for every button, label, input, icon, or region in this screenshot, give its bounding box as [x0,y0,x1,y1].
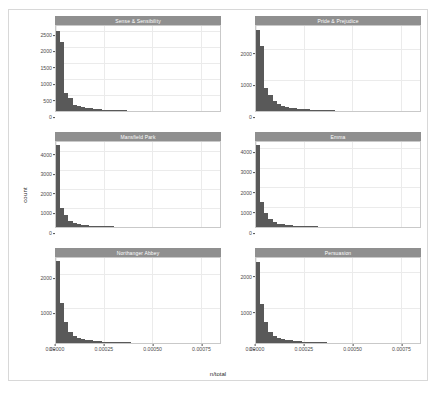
x-tick-label: 0.00025 [94,347,113,352]
y-axis: 01000200030004000 [231,141,255,228]
facet-strip-label: Northanger Abbey [55,248,221,257]
facet-panel: Emma010002000300040000.000000.000250.000… [231,132,421,242]
y-tick-label: 4000 [40,152,52,157]
facet-panel: Sense & Sensibility050010001500200025000… [31,16,221,126]
y-axis: 010002000 [231,257,255,344]
histogram-bar [418,343,421,344]
histogram-bars [256,258,420,343]
gridline-horizontal [56,227,220,228]
facet-strip-label: Pride & Prejudice [255,16,421,25]
facet-panel: Mansfield Park010002000300040000.000000.… [31,132,221,242]
y-tick-label: 2000 [40,276,52,281]
x-axis: 0.000000.000250.000500.00075 [255,344,421,358]
histogram-bars [256,26,420,111]
y-tick-label: 0 [49,115,52,120]
gridline-horizontal [256,111,420,112]
gridline-horizontal [56,111,220,112]
y-tick-label: 0 [249,231,252,236]
y-axis: 01000200030004000 [31,141,55,228]
plot-panel [55,141,221,228]
y-tick-label: 1000 [40,82,52,87]
x-tick-label: 0.00000 [246,347,265,352]
x-tick-label: 0.00075 [392,347,411,352]
plot-panel [255,257,421,344]
y-tick-label: 1000 [40,311,52,316]
y-tick-label: 2500 [40,33,52,38]
histogram-bar [218,343,221,344]
y-tick-label: 1000 [40,211,52,216]
y-tick-label: 2000 [240,51,252,56]
histogram-bar [218,227,221,228]
facet-body: 010002000 [31,257,221,344]
facet-body: 01000200030004000 [231,141,421,228]
facet-panel: Persuasion0100020000.000000.000250.00050… [231,248,421,358]
histogram-bar [418,111,421,112]
facet-strip-label: Mansfield Park [55,132,221,141]
y-tick-label: 0 [249,115,252,120]
histogram-bar [418,227,421,228]
facet-plot: count n/total Sense & Sensibility0500100… [9,10,427,380]
y-tick-label: 2000 [240,274,252,279]
histogram-bars [256,142,420,227]
facet-strip-label: Persuasion [255,248,421,257]
plot-panel [255,141,421,228]
x-axis-title: n/total [9,371,427,377]
facet-panel: Northanger Abbey0100020000.000000.000250… [31,248,221,358]
y-axis: 010002000 [231,25,255,112]
plot-panel [255,25,421,112]
facet-strip-label: Sense & Sensibility [55,16,221,25]
facet-body: 05001000150020002500 [31,25,221,112]
plot-panel [55,25,221,112]
y-axis-title: count [22,187,28,203]
x-tick-label: 0.00075 [192,347,211,352]
y-tick-label: 3000 [240,170,252,175]
y-tick-label: 4000 [240,150,252,155]
y-tick-label: 2000 [40,191,52,196]
x-axis: 0.000000.000250.000500.00075 [55,344,221,358]
x-tick-label: 0.00050 [143,347,162,352]
facet-body: 010002000 [231,25,421,112]
y-tick-label: 1000 [240,83,252,88]
y-tick-label: 1500 [40,65,52,70]
histogram-bar [218,111,221,112]
y-tick-label: 1000 [240,210,252,215]
y-tick-label: 2000 [240,190,252,195]
facet-body: 01000200030004000 [31,141,221,228]
histogram-bars [56,26,220,111]
y-tick-label: 500 [43,98,52,103]
y-axis: 010002000 [31,257,55,344]
y-tick-label: 0 [49,231,52,236]
x-tick-label: 0.00050 [343,347,362,352]
y-tick-label: 2000 [40,49,52,54]
x-tick-label: 0.00000 [46,347,65,352]
x-tick-label: 0.00025 [294,347,313,352]
facet-strip-label: Emma [255,132,421,141]
facet-panel: Pride & Prejudice0100020000.000000.00025… [231,16,421,126]
y-tick-label: 1000 [240,310,252,315]
histogram-bars [56,258,220,343]
y-axis: 05001000150020002500 [31,25,55,112]
plot-panel [55,257,221,344]
facet-grid: Sense & Sensibility050010001500200025000… [31,16,421,358]
histogram-bars [56,142,220,227]
facet-body: 010002000 [231,257,421,344]
gridline-horizontal [256,227,420,228]
y-tick-label: 3000 [40,172,52,177]
figure-card: count n/total Sense & Sensibility0500100… [8,9,428,381]
